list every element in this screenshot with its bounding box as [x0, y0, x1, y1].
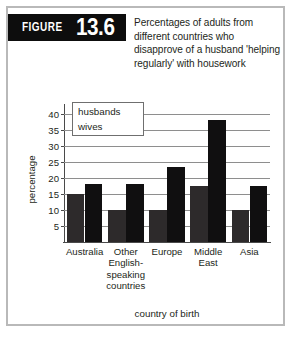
bar-chart: percentage 510152025303540 husbands wive… [8, 70, 283, 326]
x-tick-label: Asia [223, 246, 276, 257]
bar-wives [85, 184, 103, 242]
y-tick-label: 5 [54, 221, 59, 232]
figure-frame: FIGURE 13.6 Percentages of adults from d… [6, 6, 285, 326]
bar-husbands [149, 210, 167, 242]
bar-wives [208, 120, 226, 242]
bar-husbands [232, 210, 250, 242]
bar-husbands [108, 210, 126, 242]
y-tick-label: 40 [48, 109, 59, 120]
x-axis-label: country of birth [64, 308, 270, 319]
x-axis-line [63, 242, 271, 243]
bar-group [229, 106, 270, 242]
bar-wives [250, 186, 268, 242]
y-tick-label: 10 [48, 205, 59, 216]
bar-group [146, 106, 187, 242]
bar-wives [167, 167, 185, 242]
legend-item-husbands: husbands [78, 106, 121, 117]
y-tick-label: 30 [48, 141, 59, 152]
chart-legend: husbands wives [72, 102, 144, 136]
figure-title: Percentages of adults from different cou… [134, 16, 281, 70]
y-tick-label: 35 [48, 125, 59, 136]
y-tick-label: 25 [48, 157, 59, 168]
legend-item-wives: wives [78, 121, 103, 132]
bar-wives [126, 184, 144, 242]
figure-banner-word: FIGURE [22, 21, 63, 34]
figure-banner-number: 13.6 [76, 14, 114, 40]
y-axis-label: percentage [26, 135, 37, 225]
bar-husbands [67, 194, 85, 242]
bar-group [188, 106, 229, 242]
y-tick-label: 15 [48, 189, 59, 200]
bar-husbands [190, 186, 208, 242]
y-tick-label: 20 [48, 173, 59, 184]
figure-number-banner: FIGURE 13.6 [8, 14, 126, 41]
